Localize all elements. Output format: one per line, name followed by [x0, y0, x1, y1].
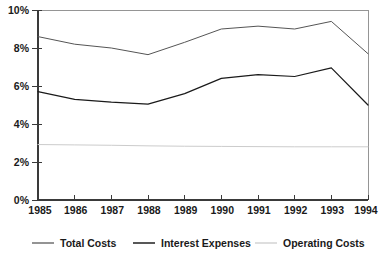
series-line-operating-costs — [38, 145, 368, 147]
x-tick-label-1986: 1986 — [64, 204, 88, 216]
x-tick-label-1992: 1992 — [284, 204, 308, 216]
legend-label-operating-costs: Operating Costs — [283, 237, 365, 249]
y-tick-label-6: 6% — [14, 80, 30, 92]
legend-label-interest-expenses: Interest Expenses — [161, 237, 251, 249]
x-tick-label-1988: 1988 — [137, 204, 161, 216]
x-tick-label-1987: 1987 — [101, 204, 125, 216]
x-tick-label-1990: 1990 — [211, 204, 235, 216]
chart-legend: Total Costs Interest Expenses Operating … — [32, 237, 365, 249]
x-tick-label-1994: 1994 — [354, 204, 378, 216]
x-tick-label-1993: 1993 — [321, 204, 345, 216]
series-line-total-costs — [38, 21, 368, 54]
x-tick-label-1991: 1991 — [247, 204, 271, 216]
legend-label-total-costs: Total Costs — [60, 237, 117, 249]
line-chart: 10% 8% 6% 4% 2% 0% 1985 1986 1987 1988 1… — [0, 0, 388, 270]
y-tick-label-8: 8% — [14, 42, 30, 54]
y-tick-label-4: 4% — [14, 118, 30, 130]
y-tick-marks — [32, 10, 42, 200]
x-tick-label-1985: 1985 — [28, 204, 52, 216]
y-tick-label-2: 2% — [14, 156, 30, 168]
series-line-interest-expenses — [38, 68, 368, 105]
y-tick-label-0: 0% — [14, 194, 30, 206]
x-tick-label-1989: 1989 — [174, 204, 198, 216]
chart-svg: 10% 8% 6% 4% 2% 0% 1985 1986 1987 1988 1… — [0, 0, 388, 270]
x-tick-marks — [38, 195, 368, 200]
y-tick-label-10: 10% — [8, 4, 30, 16]
